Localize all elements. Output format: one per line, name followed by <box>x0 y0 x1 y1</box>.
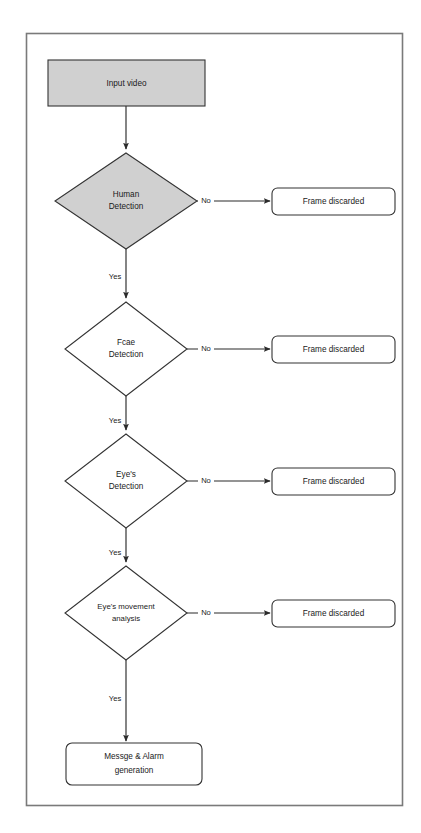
frame-discarded-4-label: Frame discarded <box>303 609 365 618</box>
node-eye-movement-analysis[interactable]: Eye's movement analysis <box>65 566 187 660</box>
node-frame-discarded-3[interactable]: Frame discarded <box>272 468 395 495</box>
eye-movement-analysis-label-line1: Eye's movement <box>97 602 155 611</box>
node-human-detection[interactable]: Human Detection <box>55 153 197 249</box>
edge-label-yes-4: Yes <box>109 694 122 703</box>
frame-discarded-1-label: Frame discarded <box>303 197 365 206</box>
human-detection-label-line2: Detection <box>109 202 144 211</box>
node-eyes-detection[interactable]: Eye's Detection <box>65 434 187 528</box>
eye-movement-analysis-label-line2: analysis <box>112 614 140 623</box>
flowchart-diagram: Input video Human Detection Fcae Detecti… <box>0 0 421 833</box>
human-detection-shape <box>55 153 197 249</box>
message-alarm-shape <box>66 743 202 785</box>
eyes-detection-shape <box>65 434 187 528</box>
edge-label-no-1: No <box>201 196 211 205</box>
face-detection-shape <box>65 302 187 396</box>
edge-label-yes-1: Yes <box>109 272 122 281</box>
edge-label-no-4: No <box>201 608 211 617</box>
frame-discarded-2-label: Frame discarded <box>303 345 365 354</box>
message-alarm-label-line2: generation <box>115 766 154 775</box>
edge-label-yes-2: Yes <box>109 416 122 425</box>
node-face-detection[interactable]: Fcae Detection <box>65 302 187 396</box>
node-input-video[interactable]: Input video <box>48 60 205 106</box>
input-video-label: Input video <box>106 79 147 88</box>
message-alarm-label-line1: Messge & Alarm <box>104 752 164 761</box>
node-frame-discarded-2[interactable]: Frame discarded <box>272 336 395 363</box>
edge-label-no-2: No <box>201 344 211 353</box>
eyes-detection-label-line2: Detection <box>109 482 144 491</box>
node-message-alarm[interactable]: Messge & Alarm generation <box>66 743 202 785</box>
face-detection-label-line1: Fcae <box>117 338 136 347</box>
human-detection-label-line1: Human <box>113 190 140 199</box>
flowchart-page: Input video Human Detection Fcae Detecti… <box>0 0 421 833</box>
frame-discarded-3-label: Frame discarded <box>303 477 365 486</box>
node-frame-discarded-1[interactable]: Frame discarded <box>272 188 395 215</box>
eyes-detection-label-line1: Eye's <box>116 470 136 479</box>
edge-label-yes-3: Yes <box>109 548 122 557</box>
edge-label-no-3: No <box>201 476 211 485</box>
page-frame <box>27 34 403 806</box>
face-detection-label-line2: Detection <box>109 350 144 359</box>
node-frame-discarded-4[interactable]: Frame discarded <box>272 600 395 627</box>
eye-movement-analysis-shape <box>65 566 187 660</box>
